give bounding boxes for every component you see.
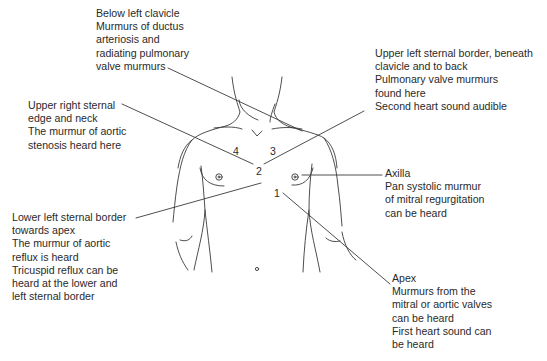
label-line: reflux is heard [12, 251, 126, 264]
label-line: stenosis heard here [28, 139, 126, 152]
nipple-right [292, 174, 298, 180]
nipple-left-inner [218, 176, 220, 178]
label-upper-right-sternal: Upper right sternal edge and neck The mu… [28, 99, 126, 152]
label-line: found here [375, 87, 533, 100]
shoulder-left [178, 126, 226, 168]
label-line: can be heard [385, 207, 485, 220]
rib-mark-left [180, 236, 192, 241]
leader-apex [283, 193, 390, 284]
label-line: heard at the lower and [12, 277, 126, 290]
label-line: mitral or aortic valves [392, 298, 492, 311]
label-line: radiating pulmonary [96, 47, 189, 60]
nipple-right-inner [294, 176, 296, 178]
leader-upper-left-sternal [264, 111, 364, 164]
neck-right-outline [274, 77, 290, 127]
shoulder-right [290, 127, 337, 168]
navel [255, 267, 258, 270]
auscultation-diagram: 4 3 2 1 Below left clavicle Murmurs of d… [0, 0, 547, 361]
label-line: arteriosis and [96, 33, 189, 46]
sternal-notch [252, 130, 262, 136]
point-4: 4 [233, 145, 239, 157]
label-line: Murmurs of ductus [96, 20, 189, 33]
label-line: clavicle and to back [375, 60, 533, 73]
label-line: can be heard [392, 312, 492, 325]
lower-left-flank [176, 242, 188, 270]
label-apex: Apex Murmurs from the mitral or aortic v… [392, 272, 492, 351]
torso-left-side [205, 210, 212, 272]
label-line: Below left clavicle [96, 7, 189, 20]
nipple-left [216, 174, 222, 180]
label-line: towards apex [12, 224, 126, 237]
arm-left-inner [194, 166, 205, 270]
label-line: Axilla [385, 167, 485, 180]
neck-left-outline [226, 77, 240, 126]
label-below-left-clavicle: Below left clavicle Murmurs of ductus ar… [96, 7, 189, 73]
label-line: Apex [392, 272, 492, 285]
label-line: Murmurs from the [392, 285, 492, 298]
label-line: Tricuspid reflux can be [12, 264, 126, 277]
leader-lower-left-sternal [136, 183, 261, 218]
label-line: The murmur of aortic [12, 237, 126, 250]
label-line: edge and neck [28, 112, 126, 125]
label-line: Pulmonary valve murmurs [375, 73, 533, 86]
label-axilla: Axilla Pan systolic murmur of mitral reg… [385, 167, 485, 220]
point-3: 3 [270, 145, 276, 157]
label-upper-left-sternal: Upper left sternal border, beneath clavi… [375, 47, 533, 113]
label-line: The murmur of aortic [28, 125, 126, 138]
lower-right-flank [342, 232, 356, 260]
arm-right-inner [309, 164, 320, 272]
label-line: Pan systolic murmur [385, 180, 485, 193]
arm-right-outer [324, 138, 342, 226]
label-line: Second heart sound audible [375, 100, 533, 113]
torso-right-side [303, 210, 309, 272]
label-line: of mitral regurgitation [385, 193, 485, 206]
label-line: First heart sound can [392, 325, 492, 338]
label-lower-left-sternal: Lower left sternal border towards apex T… [12, 211, 126, 303]
point-1: 1 [274, 187, 280, 199]
label-line: valve murmurs [96, 60, 189, 73]
point-2: 2 [256, 165, 262, 177]
label-line: Upper left sternal border, beneath [375, 47, 533, 60]
label-line: left sternal border [12, 290, 126, 303]
label-line: Lower left sternal border [12, 211, 126, 224]
label-line: Upper right sternal [28, 99, 126, 112]
label-line: be heard [392, 338, 492, 351]
